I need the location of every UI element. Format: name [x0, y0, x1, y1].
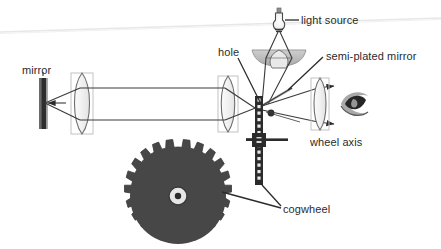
- label-hole: hole: [218, 46, 239, 58]
- label-wheel-axis: wheel axis: [310, 136, 362, 148]
- observer-eye-icon: [341, 92, 368, 115]
- objective-lens: [218, 76, 238, 132]
- light-source-bulb: [273, 8, 284, 32]
- label-cogwheel: cogwheel: [283, 203, 330, 215]
- scan-artifact-line: [0, 18, 441, 34]
- condenser-lens-shade: [252, 50, 306, 68]
- hole-leader: [238, 58, 260, 102]
- eyepiece-lens: [311, 78, 329, 130]
- label-mirror: mirror: [22, 64, 51, 76]
- label-light-source: light source: [301, 14, 358, 26]
- wheel-axis-element: [246, 133, 288, 147]
- diagram-canvas: [0, 0, 441, 249]
- cogwheel-leader-wheel: [222, 192, 281, 208]
- cogwheel-leader-strip: [262, 185, 281, 206]
- collimating-lens: [71, 73, 93, 134]
- fizeau-apparatus-diagram: mirror hole light source semi-plated mir…: [0, 0, 441, 249]
- label-semi-plated-mirror: semi-plated mirror: [326, 50, 416, 62]
- cogwheel-element: [125, 140, 232, 245]
